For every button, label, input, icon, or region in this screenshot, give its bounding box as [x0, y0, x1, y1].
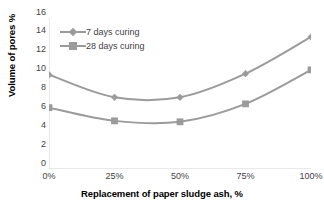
legend-label: 7 days curing — [86, 27, 140, 37]
y-tick-label: 12 — [22, 45, 46, 54]
y-tick-label: 0 — [22, 159, 46, 168]
y-axis-tick-labels: 1614121086420 — [22, 12, 46, 163]
legend-marker-square — [69, 42, 77, 50]
legend-marker-diamond — [69, 28, 77, 36]
data-point-marker — [177, 118, 184, 125]
x-tick-label: 75% — [236, 172, 254, 181]
y-tick-label: 10 — [22, 64, 46, 73]
data-point-marker — [111, 94, 118, 101]
y-tick-label: 8 — [22, 83, 46, 92]
y-tick-label: 14 — [22, 26, 46, 35]
x-tick-label: 50% — [171, 172, 189, 181]
y-axis-title: Volume of pores % — [6, 1, 17, 111]
y-tick-label: 16 — [22, 8, 46, 17]
data-point-marker — [242, 70, 249, 77]
chart-legend: 7 days curing28 days curing — [60, 25, 145, 53]
x-tick-label: 0% — [42, 172, 55, 181]
x-axis-title: Replacement of paper sludge ash, % — [0, 188, 324, 199]
x-tick-label: 25% — [105, 172, 123, 181]
data-point-marker — [49, 104, 52, 111]
data-point-marker — [242, 100, 249, 107]
x-tick-label: 100% — [299, 172, 322, 181]
pore-volume-line-chart: Volume of pores % 1614121086420 0%25%50%… — [0, 0, 324, 211]
y-tick-label: 4 — [22, 121, 46, 130]
y-tick-label: 6 — [22, 102, 46, 111]
data-point-marker — [176, 94, 183, 101]
legend-swatch — [60, 26, 86, 38]
data-point-marker — [308, 67, 311, 74]
x-axis-tick-labels: 0%25%50%75%100% — [49, 172, 311, 186]
legend-entry: 28 days curing — [60, 39, 145, 53]
data-point-marker — [49, 71, 53, 78]
legend-swatch — [60, 40, 86, 52]
data-point-marker — [111, 117, 118, 124]
legend-label: 28 days curing — [86, 41, 145, 51]
y-tick-label: 2 — [22, 140, 46, 149]
legend-entry: 7 days curing — [60, 25, 145, 39]
